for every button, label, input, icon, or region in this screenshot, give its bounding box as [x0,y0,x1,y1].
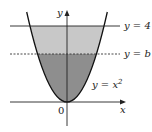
curve-label: y = x2 [91,78,123,90]
origin-label: 0 [58,105,64,116]
x-axis-label: x [120,104,126,115]
parabola-diagram: y x 0 y = 4 y = b y = x2 [0,0,152,132]
line-y-4-label: y = 4 [123,20,151,31]
y-axis-label: y [56,7,63,18]
line-y-b-label: y = b [123,48,151,59]
y-axis-arrow-icon [65,10,70,16]
